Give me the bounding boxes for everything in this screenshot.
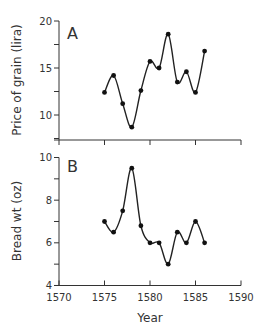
x-tick-label: 1585 xyxy=(183,292,208,303)
data-point xyxy=(184,240,189,245)
x-tick-label: 1590 xyxy=(228,292,253,303)
data-point xyxy=(157,240,162,245)
panel-a-grain-price: 201510 A Price of grain (lira) xyxy=(10,16,241,146)
data-point xyxy=(202,49,207,54)
x-axis-label: Year xyxy=(136,311,162,325)
data-point xyxy=(102,219,107,224)
data-point xyxy=(111,230,116,235)
panel-a-label: A xyxy=(67,24,78,43)
two-panel-line-chart: 201510 A Price of grain (lira) 108641570… xyxy=(0,0,265,336)
data-point xyxy=(193,90,198,95)
data-point xyxy=(166,262,171,267)
data-point xyxy=(175,230,180,235)
data-point xyxy=(102,90,107,95)
panel-a-y-axis-label: Price of grain (lira) xyxy=(10,24,24,135)
panel-b-y-axis-label: Bread wt (oz) xyxy=(10,181,24,261)
data-point xyxy=(120,208,125,213)
data-point xyxy=(111,73,116,78)
panel-a-data-line xyxy=(105,34,205,127)
y-tick-label: 20 xyxy=(39,16,52,27)
x-tick-label: 1580 xyxy=(137,292,162,303)
data-point xyxy=(148,59,153,64)
data-point xyxy=(129,166,134,171)
data-point xyxy=(139,223,144,228)
x-tick-label: 1575 xyxy=(92,292,117,303)
data-point xyxy=(166,32,171,37)
data-point xyxy=(157,66,162,71)
data-point xyxy=(175,80,180,85)
data-point xyxy=(139,88,144,93)
data-point xyxy=(184,69,189,74)
x-tick-label: 1570 xyxy=(46,292,71,303)
data-point xyxy=(120,101,125,106)
y-tick-label: 10 xyxy=(39,110,52,121)
y-tick-label: 10 xyxy=(39,152,52,163)
data-point xyxy=(202,240,207,245)
data-point xyxy=(148,240,153,245)
data-point xyxy=(193,219,198,224)
y-tick-label: 8 xyxy=(46,195,52,206)
y-tick-label: 15 xyxy=(39,63,52,74)
panel-b-data-points xyxy=(102,166,207,267)
y-tick-label: 4 xyxy=(46,280,52,291)
y-tick-label: 6 xyxy=(46,237,52,248)
panel-b-data-line xyxy=(105,168,205,264)
panel-b-bread-weight: 1086415701575158015851590 B Bread wt (oz… xyxy=(10,152,254,325)
panel-a-data-points xyxy=(102,32,207,130)
data-point xyxy=(129,125,134,130)
panel-b-label: B xyxy=(67,157,78,176)
